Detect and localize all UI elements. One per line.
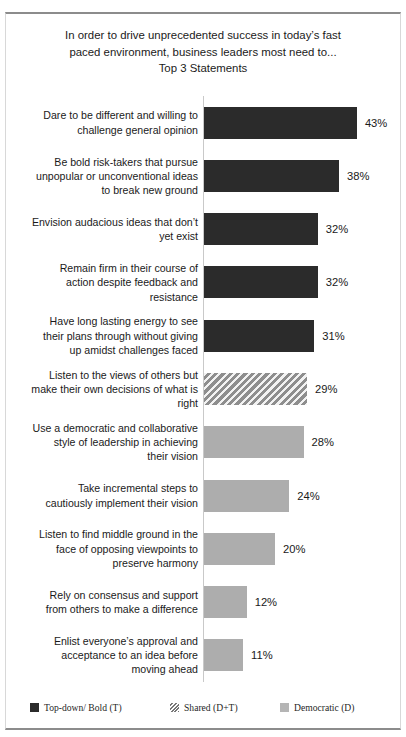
bar-track: 12% — [204, 575, 277, 628]
bar-category-label-line: Be bold risk-takers that pursue — [6, 155, 198, 169]
chart-title: In order to drive unprecedented success … — [22, 27, 384, 77]
bar-category-label-line: Take incremental steps to — [6, 481, 198, 495]
bar-category-label: Have long lasting energy to seetheir pla… — [6, 314, 198, 357]
chart-bar-row: Listen to the views of others butmake th… — [0, 362, 406, 415]
chart-bar — [204, 426, 304, 458]
chart-title-line: paced environment, business leaders most… — [22, 44, 384, 61]
bar-category-label-line: Enlist everyone’s approval and — [6, 634, 198, 648]
bar-category-label-line: right — [6, 396, 198, 410]
chart-bar — [204, 373, 307, 405]
bar-track: 29% — [204, 362, 338, 415]
bar-category-label-line: preserve harmony — [6, 556, 198, 570]
bar-track: 38% — [204, 149, 370, 202]
legend-item-democratic: Democratic (D) — [280, 702, 354, 713]
chart-bar-row: Dare to be different and willing tochall… — [0, 96, 406, 149]
bar-track: 20% — [204, 522, 306, 575]
chart-bar-row: Have long lasting energy to seetheir pla… — [0, 309, 406, 362]
bar-value-label: 29% — [315, 383, 337, 395]
legend-swatch-icon — [30, 703, 39, 712]
bar-category-label-line: their plans through without giving — [6, 329, 198, 343]
bar-category-label-line: yet exist — [6, 229, 198, 243]
bar-category-label-line: Envision audacious ideas that don’t — [6, 215, 198, 229]
bar-category-label-line: from others to make a difference — [6, 602, 198, 616]
chart-bar — [204, 266, 318, 298]
chart-title-line: In order to drive unprecedented success … — [22, 27, 384, 44]
bar-category-label-line: Listen to find middle ground in the — [6, 527, 198, 541]
chart-title-line: Top 3 Statements — [22, 60, 384, 77]
bar-category-label-line: unpopular or unconventional ideas — [6, 169, 198, 183]
legend-label: Top-down/ Bold (T) — [44, 702, 122, 713]
bar-category-label-line: Rely on consensus and support — [6, 588, 198, 602]
legend-label: Democratic (D) — [294, 702, 354, 713]
chart-bar — [204, 160, 339, 192]
legend-item-top-down-bold: Top-down/ Bold (T) — [30, 702, 122, 713]
bar-category-label: Dare to be different and willing tochall… — [6, 108, 198, 136]
bar-category-label: Be bold risk-takers that pursueunpopular… — [6, 155, 198, 198]
bar-category-label-line: face of opposing viewpoints to — [6, 542, 198, 556]
bar-value-label: 38% — [347, 170, 369, 182]
legend-item-shared: Shared (D+T) — [170, 702, 238, 713]
bar-category-label-line: Listen to the views of others but — [6, 368, 198, 382]
chart-bar — [204, 480, 289, 512]
bar-value-label: 11% — [251, 649, 273, 661]
bar-category-label-line: challenge general opinion — [6, 123, 198, 137]
chart-bar-row: Take incremental steps tocautiously impl… — [0, 469, 406, 522]
legend-swatch-icon — [280, 703, 289, 712]
bar-value-label: 32% — [326, 223, 348, 235]
bar-category-label-line: moving ahead — [6, 662, 198, 676]
chart-bar-row: Enlist everyone’s approval andacceptance… — [0, 629, 406, 682]
bar-category-label-line: action despite feedback and — [6, 275, 198, 289]
bar-value-label: 31% — [322, 330, 344, 342]
chart-bar-row: Remain firm in their course ofaction des… — [0, 256, 406, 309]
bar-track: 28% — [204, 416, 334, 469]
chart-bar — [204, 586, 247, 618]
chart-bar-row: Rely on consensus and supportfrom others… — [0, 575, 406, 628]
bar-track: 32% — [204, 256, 348, 309]
bar-track: 31% — [204, 309, 345, 362]
bar-track: 11% — [204, 629, 273, 682]
bar-value-label: 24% — [297, 490, 319, 502]
bar-category-label-line: Use a democratic and collaborative — [6, 421, 198, 435]
bar-track: 43% — [204, 96, 387, 149]
bar-category-label-line: to break new ground — [6, 183, 198, 197]
bar-category-label: Use a democratic and collaborativestyle … — [6, 421, 198, 464]
chart-bar-row: Use a democratic and collaborativestyle … — [0, 416, 406, 469]
bar-track: 32% — [204, 203, 348, 256]
bar-value-label: 20% — [283, 543, 305, 555]
chart-container: In order to drive unprecedented success … — [0, 0, 406, 737]
chart-bar — [204, 533, 275, 565]
legend-label: Shared (D+T) — [184, 702, 238, 713]
bar-category-label: Remain firm in their course ofaction des… — [6, 261, 198, 304]
chart-bar — [204, 320, 314, 352]
bar-category-label: Envision audacious ideas that don’tyet e… — [6, 215, 198, 243]
bar-value-label: 43% — [365, 117, 387, 129]
bar-track: 24% — [204, 469, 320, 522]
chart-bar-row: Listen to find middle ground in theface … — [0, 522, 406, 575]
bar-value-label: 12% — [255, 596, 277, 608]
chart-bar-row: Be bold risk-takers that pursueunpopular… — [0, 149, 406, 202]
bar-category-label: Listen to the views of others butmake th… — [6, 368, 198, 411]
plot-area: Dare to be different and willing tochall… — [0, 96, 406, 682]
bar-category-label-line: up amidst challenges faced — [6, 343, 198, 357]
bar-category-label-line: make their own decisions of what is — [6, 382, 198, 396]
bar-category-label: Take incremental steps tocautiously impl… — [6, 481, 198, 509]
chart-bar — [204, 639, 243, 671]
bar-category-label-line: their vision — [6, 449, 198, 463]
bar-category-label-line: resistance — [6, 290, 198, 304]
bar-value-label: 28% — [312, 436, 334, 448]
legend-swatch-icon — [170, 703, 179, 712]
bar-category-label-line: Have long lasting energy to see — [6, 314, 198, 328]
bar-category-label-line: Remain firm in their course of — [6, 261, 198, 275]
bar-category-label-line: style of leadership in achieving — [6, 435, 198, 449]
bar-category-label: Listen to find middle ground in theface … — [6, 527, 198, 570]
bar-category-label-line: cautiously implement their vision — [6, 496, 198, 510]
bar-category-label-line: acceptance to an idea before — [6, 648, 198, 662]
bar-category-label-line: Dare to be different and willing to — [6, 108, 198, 122]
chart-bar-row: Envision audacious ideas that don’tyet e… — [0, 203, 406, 256]
bar-category-label: Rely on consensus and supportfrom others… — [6, 588, 198, 616]
bar-value-label: 32% — [326, 276, 348, 288]
chart-bar — [204, 107, 357, 139]
bar-category-label: Enlist everyone’s approval andacceptance… — [6, 634, 198, 677]
chart-bar — [204, 213, 318, 245]
